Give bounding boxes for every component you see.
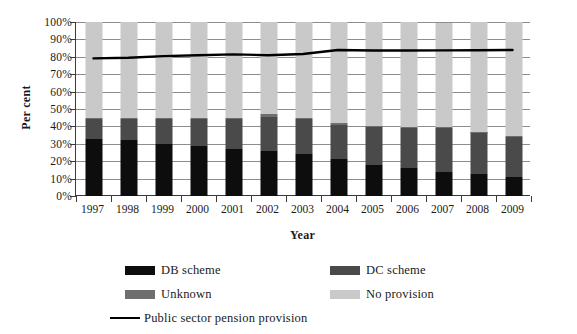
chart-legend: DB schemeDC schemeUnknownNo provisionPub… xyxy=(0,258,577,334)
legend-item-label: Unknown xyxy=(161,287,212,302)
y-axis-tick-label: 0% xyxy=(28,190,72,202)
legend-line-swatch xyxy=(110,317,140,319)
x-axis-tick xyxy=(111,196,112,202)
legend-item-label: No provision xyxy=(366,287,434,302)
x-axis-tick-label: 2005 xyxy=(361,203,384,215)
y-axis-tick-labels: 0%10%20%30%40%50%60%70%80%90%100% xyxy=(28,22,72,196)
x-axis-tick-label: 2002 xyxy=(256,203,279,215)
legend-item-label: DB scheme xyxy=(161,263,221,278)
x-axis-tick-label: 1998 xyxy=(116,203,139,215)
x-axis-tick-label: 1999 xyxy=(151,203,174,215)
x-axis-tick xyxy=(356,196,357,202)
x-axis-tick-label: 2006 xyxy=(396,203,419,215)
x-axis-tick xyxy=(181,196,182,202)
y-axis-title: Per cent xyxy=(19,73,34,143)
legend-item[interactable]: DC scheme xyxy=(330,260,426,280)
legend-item[interactable]: Unknown xyxy=(125,284,212,304)
chart-figure: 0%10%20%30%40%50%60%70%80%90%100% Per ce… xyxy=(0,0,577,334)
x-axis-tick-label: 2003 xyxy=(291,203,314,215)
y-axis-tick-label: 80% xyxy=(28,51,72,63)
y-axis-tick-label: 40% xyxy=(28,120,72,132)
y-axis-tick-label: 70% xyxy=(28,68,72,80)
x-axis-tick xyxy=(321,196,322,202)
x-axis-tick-label: 2007 xyxy=(431,203,454,215)
x-axis-tick xyxy=(496,196,497,202)
x-axis-tick xyxy=(391,196,392,202)
legend-item[interactable]: No provision xyxy=(330,284,434,304)
x-axis-title: Year xyxy=(75,228,530,243)
legend-color-swatch xyxy=(330,290,360,299)
y-axis-tick-label: 30% xyxy=(28,138,72,150)
x-axis-tick xyxy=(251,196,252,202)
public-sector-line-series xyxy=(76,22,530,195)
y-axis-tick-label: 50% xyxy=(28,103,72,115)
legend-color-swatch xyxy=(330,266,360,275)
legend-item[interactable]: DB scheme xyxy=(125,260,221,280)
x-axis-tick-label: 2008 xyxy=(466,203,489,215)
y-axis-tick-label: 60% xyxy=(28,86,72,98)
plot-area xyxy=(75,22,530,196)
x-axis-tick xyxy=(461,196,462,202)
x-axis-tick-labels: 1997199819992000200120022003200420052006… xyxy=(75,203,530,221)
legend-item-label: DC scheme xyxy=(366,263,426,278)
x-axis-tick-label: 2000 xyxy=(186,203,209,215)
y-axis-tick-label: 20% xyxy=(28,155,72,167)
x-axis-tick xyxy=(76,196,77,202)
x-axis-tick xyxy=(531,196,532,202)
legend-color-swatch xyxy=(125,266,155,275)
x-axis-tick-label: 2009 xyxy=(501,203,524,215)
x-axis-tick-label: 2001 xyxy=(221,203,244,215)
x-axis-tick xyxy=(426,196,427,202)
x-axis-tick-label: 2004 xyxy=(326,203,349,215)
legend-item[interactable]: Public sector pension provision xyxy=(110,308,307,328)
legend-color-swatch xyxy=(125,290,155,299)
x-axis-tick-label: 1997 xyxy=(81,203,104,215)
y-axis-tick-label: 10% xyxy=(28,173,72,185)
legend-item-label: Public sector pension provision xyxy=(144,311,307,326)
x-axis-tick xyxy=(146,196,147,202)
y-axis-tick-label: 100% xyxy=(28,16,72,28)
x-axis-tick xyxy=(216,196,217,202)
y-axis-tick-label: 90% xyxy=(28,33,72,45)
x-axis-tick xyxy=(286,196,287,202)
